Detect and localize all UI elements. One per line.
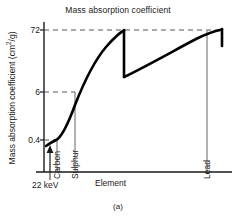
chart-plot-area (0, 0, 236, 222)
curve-segment-low-z (46, 31, 124, 147)
figure-container: Mass absorption coefficient Mass absorpt… (0, 0, 236, 222)
